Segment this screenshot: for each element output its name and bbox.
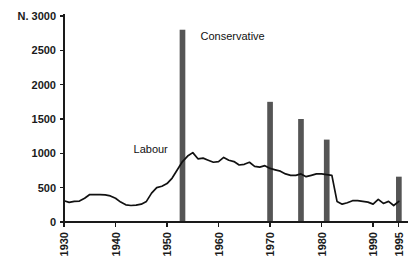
x-tick-label: 1960	[213, 232, 225, 256]
y-tick-label: 2500	[32, 44, 56, 56]
y-tick-label: 1500	[32, 113, 56, 125]
conservative-bar	[298, 119, 304, 222]
x-axis-ticks-group: 19301940195019601970198019901995	[58, 222, 405, 256]
x-tick-label: 1990	[367, 232, 379, 256]
labour-label: Labour	[134, 143, 169, 155]
election-chart-svg: N. 300025002000150010005000 193019401950…	[0, 0, 412, 267]
x-tick-label: 1930	[58, 232, 70, 256]
conservative-bar	[396, 177, 402, 222]
y-tick-label: 2000	[32, 79, 56, 91]
conservative-bars-group	[180, 30, 402, 222]
axes-group	[64, 14, 408, 222]
conservative-label: Conservative	[201, 30, 265, 42]
y-tick-label: 1000	[32, 147, 56, 159]
x-tick-label: 1995	[393, 232, 405, 256]
y-tick-label: N. 3000	[17, 10, 56, 22]
conservative-bar	[324, 140, 330, 222]
y-tick-label: 500	[38, 182, 56, 194]
x-tick-label: 1980	[316, 232, 328, 256]
y-tick-label: 0	[50, 216, 56, 228]
chart-container: N. 300025002000150010005000 193019401950…	[0, 0, 412, 267]
y-axis-ticks-group: N. 300025002000150010005000	[17, 10, 64, 228]
labour-line-path	[64, 153, 399, 206]
x-tick-label: 1940	[110, 232, 122, 256]
annotations-group: LabourConservative	[134, 30, 265, 155]
conservative-bar	[267, 102, 273, 222]
labour-line-group	[64, 153, 399, 206]
conservative-bar	[180, 30, 186, 222]
x-tick-label: 1950	[161, 232, 173, 256]
x-tick-label: 1970	[264, 232, 276, 256]
